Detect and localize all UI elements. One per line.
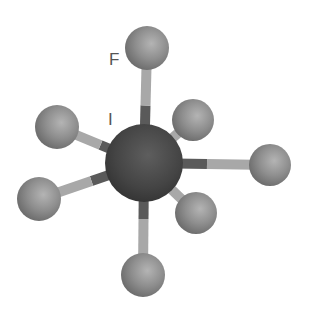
fluorine-atom-upper-left [35, 105, 79, 149]
fluorine-atom-upper-right [172, 99, 214, 141]
fluorine-label: F [109, 50, 119, 69]
iodine-label: I [108, 110, 113, 129]
fluorine-atom-lower-left [17, 177, 61, 221]
molecule-diagram: F I [0, 0, 311, 319]
iodine-atom [105, 124, 183, 202]
fluorine-atom-lower-right [175, 192, 217, 234]
fluorine-atom-top [125, 26, 169, 70]
fluorine-atom-right [249, 144, 291, 186]
fluorine-atom-bottom [121, 253, 165, 297]
